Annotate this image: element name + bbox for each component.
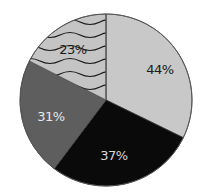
slice-label-44: 44% (146, 62, 174, 77)
slice-label-31: 31% (37, 109, 65, 124)
slice-label-37: 37% (100, 148, 128, 163)
slice-label-23: 23% (59, 42, 87, 57)
pie-chart: 44% 37% 31% 23% (0, 0, 205, 196)
